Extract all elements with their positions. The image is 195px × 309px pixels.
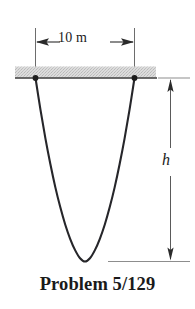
figure-caption: Problem 5/129 <box>0 275 195 294</box>
height-dimension-group <box>108 78 190 262</box>
right-attachment-point <box>132 75 138 81</box>
height-dimension-label: h <box>162 152 170 168</box>
cable-curve <box>36 78 135 262</box>
left-attachment-point <box>33 75 39 81</box>
problem-figure: 10 m h Problem 5/129 <box>0 0 195 309</box>
span-dimension-label: 10 m <box>58 31 87 45</box>
